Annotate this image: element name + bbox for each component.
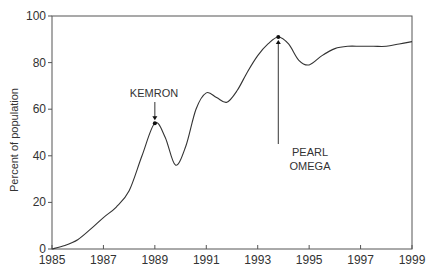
- x-tick-label: 1997: [347, 253, 374, 267]
- x-tick-label: 1995: [296, 253, 323, 267]
- annotations: KEMRON PEARL OMEGA: [130, 35, 331, 172]
- y-axis-label: Percent of population: [8, 88, 20, 192]
- y-tick-label: 100: [26, 9, 46, 23]
- data-line: [52, 37, 412, 249]
- kemron-label: KEMRON: [130, 87, 178, 99]
- x-tick-label: 1999: [399, 253, 426, 267]
- x-tick-label: 1991: [193, 253, 220, 267]
- y-tick-label: 40: [33, 149, 47, 163]
- kemron-arrowhead-icon: [152, 116, 157, 120]
- pearl-omega-marker: [276, 35, 280, 39]
- kemron-marker: [153, 121, 157, 125]
- x-tick-label: 1987: [90, 253, 117, 267]
- pearl-omega-label-line1: PEARL: [292, 146, 328, 158]
- pearl-omega-label-line2: OMEGA: [290, 160, 332, 172]
- tick-labels: 0204060801001985198719891991199319951997…: [26, 9, 426, 267]
- line-chart: 0204060801001985198719891991199319951997…: [0, 0, 435, 278]
- x-tick-label: 1985: [39, 253, 66, 267]
- y-tick-label: 60: [33, 102, 47, 116]
- plot-frame: [52, 16, 412, 249]
- x-tick-label: 1989: [142, 253, 169, 267]
- y-tick-label: 80: [33, 56, 47, 70]
- axes: [48, 16, 412, 249]
- y-tick-label: 20: [33, 195, 47, 209]
- x-tick-label: 1993: [244, 253, 271, 267]
- pearl-omega-arrowhead-icon: [276, 40, 281, 44]
